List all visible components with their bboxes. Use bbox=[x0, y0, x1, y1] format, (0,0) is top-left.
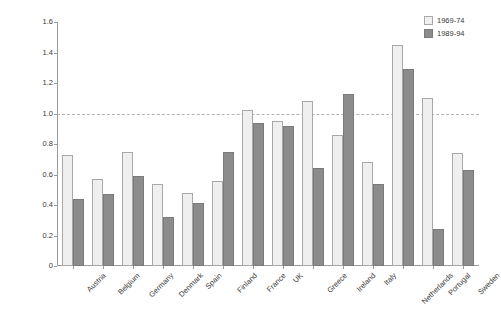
bar-finland-1989-94 bbox=[223, 152, 234, 266]
x-axis-label-greece: Greece bbox=[325, 271, 349, 295]
y-tick-label: 0.2 bbox=[31, 232, 53, 240]
x-tick-mark bbox=[133, 266, 134, 269]
y-tick-mark bbox=[54, 22, 57, 23]
x-axis-label-finland: Finland bbox=[235, 271, 259, 295]
x-tick-mark bbox=[433, 266, 434, 269]
y-tick-label: 0.6 bbox=[31, 171, 53, 179]
legend-swatch-icon bbox=[424, 29, 433, 38]
y-tick-mark bbox=[54, 175, 57, 176]
bar-denmark-1969-74 bbox=[152, 184, 163, 266]
x-axis-label-austria: Austria bbox=[85, 271, 108, 294]
bar-denmark-1989-94 bbox=[163, 217, 174, 266]
bar-portugal-1989-94 bbox=[433, 229, 444, 266]
bar-portugal-1969-74 bbox=[422, 98, 433, 266]
x-axis-label-ireland: Ireland bbox=[355, 271, 378, 294]
bar-finland-1969-74 bbox=[212, 181, 223, 266]
y-tick-mark bbox=[54, 266, 57, 267]
bar-group bbox=[268, 22, 298, 266]
x-axis-label-italy: Italy bbox=[382, 271, 398, 287]
bar-group bbox=[418, 22, 448, 266]
x-axis-label-uk: UK bbox=[291, 271, 305, 285]
bar-greece-1989-94 bbox=[313, 168, 324, 266]
y-tick-label: 1.6 bbox=[31, 18, 53, 26]
bar-group bbox=[178, 22, 208, 266]
bar-france-1969-74 bbox=[242, 110, 253, 266]
bar-austria-1969-74 bbox=[62, 155, 73, 266]
legend-label: 1969-74 bbox=[437, 16, 465, 25]
x-tick-mark bbox=[463, 266, 464, 269]
bar-greece-1969-74 bbox=[302, 101, 313, 266]
x-tick-mark bbox=[223, 266, 224, 269]
y-tick-label: 0 bbox=[31, 262, 53, 270]
bar-group bbox=[88, 22, 118, 266]
bar-netherlands-1989-94 bbox=[403, 69, 414, 266]
x-axis-label-france: France bbox=[265, 271, 288, 294]
x-tick-mark bbox=[73, 266, 74, 269]
legend-item-1989-94: 1989-94 bbox=[424, 28, 494, 39]
x-tick-mark bbox=[253, 266, 254, 269]
bar-ireland-1989-94 bbox=[343, 94, 354, 266]
bar-germany-1989-94 bbox=[133, 176, 144, 266]
bar-group bbox=[208, 22, 238, 266]
x-axis-label-sweden: Sweden bbox=[476, 271, 501, 297]
x-tick-mark bbox=[163, 266, 164, 269]
bar-group bbox=[118, 22, 148, 266]
bar-ireland-1969-74 bbox=[332, 135, 343, 266]
y-tick-mark bbox=[54, 205, 57, 206]
bar-france-1989-94 bbox=[253, 123, 264, 266]
bar-italy-1989-94 bbox=[373, 184, 384, 266]
bar-group bbox=[388, 22, 418, 266]
bar-netherlands-1969-74 bbox=[392, 45, 403, 266]
bar-group bbox=[358, 22, 388, 266]
y-tick-mark bbox=[54, 83, 57, 84]
x-tick-mark bbox=[343, 266, 344, 269]
y-tick-label: 1.0 bbox=[31, 110, 53, 118]
plot-area: 00.20.40.60.81.01.21.41.6 bbox=[57, 22, 479, 266]
bar-austria-1989-94 bbox=[73, 199, 84, 266]
legend-label: 1989-94 bbox=[437, 29, 465, 38]
legend-swatch-icon bbox=[424, 16, 433, 25]
legend-item-1969-74: 1969-74 bbox=[424, 15, 494, 26]
bar-group bbox=[58, 22, 88, 266]
x-tick-mark bbox=[193, 266, 194, 269]
bar-sweden-1969-74 bbox=[452, 153, 463, 266]
x-tick-mark bbox=[313, 266, 314, 269]
bar-spain-1969-74 bbox=[182, 193, 193, 266]
y-tick-label: 1.2 bbox=[31, 79, 53, 87]
bar-group bbox=[448, 22, 478, 266]
bar-belgium-1969-74 bbox=[92, 179, 103, 266]
y-tick-mark bbox=[54, 53, 57, 54]
bar-group bbox=[328, 22, 358, 266]
x-tick-mark bbox=[403, 266, 404, 269]
bar-uk-1989-94 bbox=[283, 126, 294, 266]
x-tick-mark bbox=[103, 266, 104, 269]
bar-group bbox=[148, 22, 178, 266]
x-axis-label-belgium: Belgium bbox=[116, 271, 142, 297]
y-tick-mark bbox=[54, 236, 57, 237]
y-tick-label: 0.4 bbox=[31, 201, 53, 209]
bar-group bbox=[238, 22, 268, 266]
y-tick-mark bbox=[54, 144, 57, 145]
legend: 1969-741989-94 bbox=[424, 15, 494, 41]
y-tick-label: 1.4 bbox=[31, 49, 53, 57]
x-tick-mark bbox=[373, 266, 374, 269]
bar-sweden-1989-94 bbox=[463, 170, 474, 266]
bar-belgium-1989-94 bbox=[103, 194, 114, 266]
x-tick-mark bbox=[283, 266, 284, 269]
bar-uk-1969-74 bbox=[272, 121, 283, 266]
bar-group bbox=[298, 22, 328, 266]
x-axis-label-denmark: Denmark bbox=[177, 271, 205, 299]
y-tick-label: 0.8 bbox=[31, 140, 53, 148]
x-axis-label-spain: Spain bbox=[204, 271, 224, 291]
bar-spain-1989-94 bbox=[193, 203, 204, 266]
bar-italy-1969-74 bbox=[362, 162, 373, 266]
x-axis-label-germany: Germany bbox=[147, 271, 175, 299]
bar-groups bbox=[58, 22, 479, 266]
bar-germany-1969-74 bbox=[122, 152, 133, 266]
